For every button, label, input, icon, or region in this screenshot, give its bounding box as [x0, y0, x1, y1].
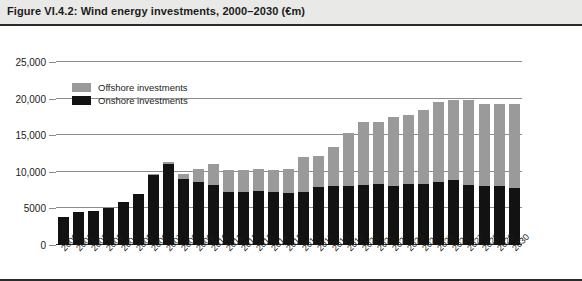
bar-2025[interactable]	[433, 102, 444, 245]
bar-segment-offshore	[388, 117, 399, 187]
y-tick-mark	[49, 135, 56, 136]
bar-segment-offshore	[343, 133, 354, 186]
bar-segment-offshore	[298, 157, 309, 191]
y-axis-label: 0	[0, 240, 46, 251]
bar-segment-offshore	[223, 170, 234, 192]
bar-segment-offshore	[433, 102, 444, 183]
page-title: Figure VI.4.2: Wind energy investments, …	[7, 5, 305, 17]
legend-label-onshore: Onshore investments	[98, 95, 188, 106]
bar-2020[interactable]	[358, 122, 369, 245]
y-axis-label: 10,000	[0, 166, 46, 177]
bar-segment-offshore	[283, 169, 294, 193]
bar-segment-offshore	[463, 100, 474, 185]
x-axis-labels: 2000200120022003200420052006200720082009…	[56, 246, 522, 281]
legend-swatch-offshore	[72, 83, 91, 92]
bar-2018[interactable]	[328, 147, 339, 245]
bar-2026[interactable]	[448, 100, 459, 245]
bar-2022[interactable]	[388, 117, 399, 245]
bar-segment-offshore	[358, 122, 369, 185]
bar-segment-offshore	[238, 170, 249, 192]
legend-item-onshore: Onshore investments	[72, 95, 188, 105]
bar-segment-offshore	[193, 169, 204, 182]
bar-2021[interactable]	[373, 122, 384, 245]
bar-segment-offshore	[328, 147, 339, 187]
bar-2019[interactable]	[343, 133, 354, 245]
bar-segment-offshore	[509, 104, 520, 188]
y-tick-mark	[49, 208, 56, 209]
legend-swatch-onshore	[72, 96, 91, 105]
chart-legend: Offshore investments Onshore investments	[72, 82, 188, 108]
bar-2029[interactable]	[494, 104, 505, 245]
bar-2023[interactable]	[403, 115, 414, 245]
bar-2016[interactable]	[298, 157, 309, 245]
bar-segment-offshore	[268, 170, 279, 193]
bar-2028[interactable]	[479, 104, 490, 245]
bar-segment-offshore	[403, 115, 414, 184]
y-tick-mark	[49, 99, 56, 100]
bar-segment-offshore	[313, 156, 324, 187]
legend-item-offshore: Offshore investments	[72, 82, 188, 92]
y-tick-mark	[49, 62, 56, 63]
bar-segment-offshore	[373, 122, 384, 184]
legend-label-offshore: Offshore investments	[98, 82, 188, 93]
y-axis-label: 5000	[0, 203, 46, 214]
y-tick-mark	[49, 172, 56, 173]
bar-2027[interactable]	[463, 100, 474, 245]
y-axis-label: 20,000	[0, 93, 46, 104]
y-axis-label: 25,000	[0, 57, 46, 68]
y-axis-label: 15,000	[0, 130, 46, 141]
bar-segment-offshore	[494, 104, 505, 187]
bar-segment-offshore	[253, 169, 264, 191]
bar-2024[interactable]	[418, 110, 429, 245]
y-tick-mark	[49, 245, 56, 246]
figure-container: Figure VI.4.2: Wind energy investments, …	[0, 0, 582, 281]
bar-2030[interactable]	[509, 104, 520, 245]
figure-header: Figure VI.4.2: Wind energy investments, …	[0, 0, 582, 25]
bar-segment-offshore	[418, 110, 429, 183]
bar-segment-offshore	[448, 100, 459, 180]
bar-segment-offshore	[208, 164, 219, 185]
header-divider	[0, 24, 582, 26]
bar-segment-offshore	[479, 104, 490, 187]
